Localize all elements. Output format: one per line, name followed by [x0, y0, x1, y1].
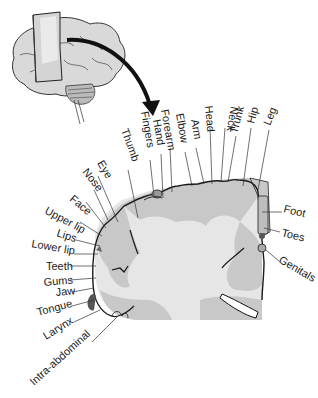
- label-hip: Hip: [244, 105, 260, 124]
- label-genitals: Genitals: [277, 253, 318, 284]
- homunculus-diagram: Thumb Fingers Hand Forearm Elbow Arm Hea…: [0, 0, 318, 398]
- label-foot: Foot: [283, 202, 307, 219]
- label-teeth: Teeth: [46, 260, 73, 272]
- coronal-section: [87, 178, 270, 320]
- labels-right: Foot Toes Genitals: [277, 202, 318, 284]
- label-head: Head: [203, 105, 217, 132]
- brain-illustration: [12, 18, 124, 125]
- label-larynx: Larynx: [41, 314, 76, 342]
- label-leg: Leg: [261, 105, 279, 127]
- coronal-plane: [33, 12, 62, 82]
- label-face: Face: [68, 192, 94, 217]
- label-jaw: Jaw: [55, 284, 76, 298]
- label-thumb: Thumb: [119, 127, 142, 163]
- label-intra-abdominal: Intra-abdominal: [27, 327, 92, 387]
- labels-top: Thumb Fingers Hand Forearm Elbow Arm Hea…: [119, 104, 279, 163]
- label-arm: Arm: [189, 118, 204, 140]
- label-toes: Toes: [281, 226, 307, 243]
